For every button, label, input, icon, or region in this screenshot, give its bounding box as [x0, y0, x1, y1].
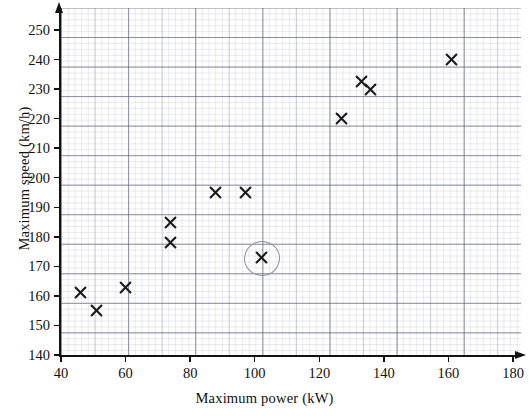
- y-axis-arrow-icon: [55, 2, 63, 13]
- y-tick: [54, 207, 61, 208]
- data-point-marker: [164, 236, 177, 249]
- y-tick-label: 250: [4, 23, 50, 38]
- scatter-plot-figure: 140150160170180190200210220230240250 406…: [0, 0, 529, 416]
- y-tick-label: 160: [4, 289, 50, 304]
- y-axis-line: [59, 12, 61, 357]
- x-tick-label: 40: [39, 366, 83, 381]
- data-point-marker: [364, 83, 377, 96]
- x-tick: [448, 355, 449, 362]
- x-tick: [512, 355, 513, 362]
- x-tick-label: 120: [297, 366, 341, 381]
- y-tick: [54, 59, 61, 60]
- x-tick-label: 180: [491, 366, 529, 381]
- y-tick: [54, 325, 61, 326]
- data-point-marker: [119, 281, 132, 294]
- x-tick-label: 160: [426, 366, 470, 381]
- data-point-marker: [90, 304, 103, 317]
- x-tick: [125, 355, 126, 362]
- x-tick: [319, 355, 320, 362]
- x-tick: [254, 355, 255, 362]
- y-tick: [54, 177, 61, 178]
- x-tick: [189, 355, 190, 362]
- x-tick-label: 80: [168, 366, 212, 381]
- data-point-marker: [335, 112, 348, 125]
- y-tick-label: 240: [4, 53, 50, 68]
- x-tick-label: 60: [104, 366, 148, 381]
- data-point-marker: [74, 286, 87, 299]
- x-tick: [383, 355, 384, 362]
- y-tick: [54, 88, 61, 89]
- data-point-marker: [255, 251, 268, 264]
- x-tick-label: 140: [362, 366, 406, 381]
- y-tick: [54, 29, 61, 30]
- y-tick: [54, 266, 61, 267]
- data-point-marker: [239, 186, 252, 199]
- data-point-marker: [209, 186, 222, 199]
- y-tick-label: 150: [4, 318, 50, 333]
- x-axis-line: [59, 355, 519, 357]
- x-tick-label: 100: [233, 366, 277, 381]
- y-tick-label: 140: [4, 348, 50, 363]
- data-point-marker: [164, 216, 177, 229]
- y-tick: [54, 236, 61, 237]
- x-axis-arrow-icon: [515, 351, 526, 359]
- x-axis-title: Maximum power (kW): [0, 390, 529, 407]
- y-tick: [54, 118, 61, 119]
- y-tick: [54, 295, 61, 296]
- y-tick: [54, 147, 61, 148]
- x-tick: [60, 355, 61, 362]
- y-axis-title: Maximum speed (km/h): [16, 69, 33, 289]
- data-point-marker: [445, 53, 458, 66]
